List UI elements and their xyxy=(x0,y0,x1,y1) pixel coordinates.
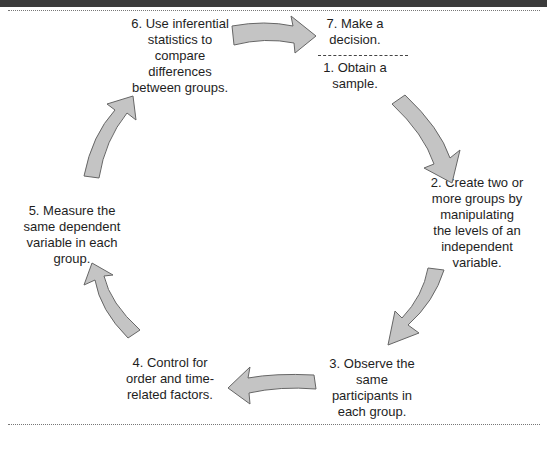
arrow-4-to-5-icon xyxy=(84,263,140,338)
arrow-6-to-7-icon xyxy=(232,16,316,53)
arrow-2-to-3-icon xyxy=(388,268,444,345)
arrow-3-to-4-icon xyxy=(228,367,316,404)
arrow-5-to-6-icon xyxy=(84,96,136,178)
arrows-layer xyxy=(0,0,547,451)
arrow-1-to-2-icon xyxy=(392,95,460,183)
bottom-dotted-rule xyxy=(8,424,540,425)
